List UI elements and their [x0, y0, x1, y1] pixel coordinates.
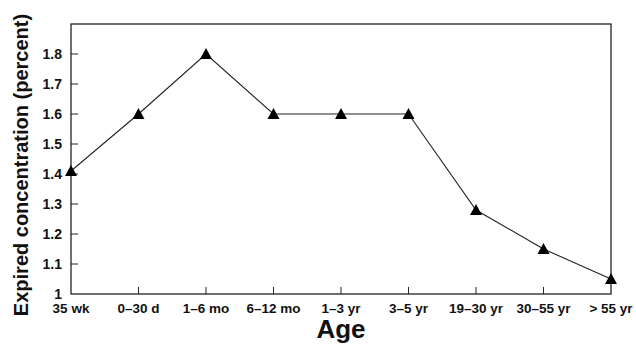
figure-caption-partial [8, 341, 636, 350]
triangle-marker [538, 243, 550, 254]
y-tick-label: 1.8 [43, 46, 63, 62]
y-tick-label: 1 [54, 286, 62, 302]
x-axis-ticks: 35 wk0–30 d1–6 mo6–12 mo1–3 yr3–5 yr19–3… [53, 287, 634, 316]
x-tick-label: > 55 yr [589, 301, 633, 316]
x-axis-title: Age [316, 314, 365, 344]
triangle-marker [470, 204, 482, 215]
line-chart: 11.11.21.31.41.51.61.71.8 35 wk0–30 d1–6… [0, 0, 636, 350]
x-tick-label: 3–5 yr [389, 301, 429, 316]
triangle-marker [65, 165, 77, 176]
plot-frame [71, 24, 611, 294]
y-tick-label: 1.4 [43, 166, 63, 182]
y-tick-label: 1.2 [43, 226, 63, 242]
y-tick-label: 1.7 [43, 76, 63, 92]
y-tick-label: 1.5 [43, 136, 63, 152]
y-tick-label: 1.1 [43, 256, 63, 272]
x-tick-label: 0–30 d [117, 301, 159, 316]
data-markers [65, 48, 617, 284]
triangle-marker [605, 273, 617, 284]
x-tick-label: 35 wk [53, 301, 90, 316]
y-axis-title: Expired concentration (percent) [10, 14, 32, 316]
x-tick-label: 19–30 yr [449, 301, 504, 316]
x-tick-label: 6–12 mo [246, 301, 300, 316]
x-tick-label: 30–55 yr [516, 301, 571, 316]
y-tick-label: 1.3 [43, 196, 63, 212]
x-tick-label: 1–6 mo [183, 301, 230, 316]
triangle-marker [200, 48, 212, 59]
data-line [71, 54, 611, 279]
y-tick-label: 1.6 [43, 106, 63, 122]
